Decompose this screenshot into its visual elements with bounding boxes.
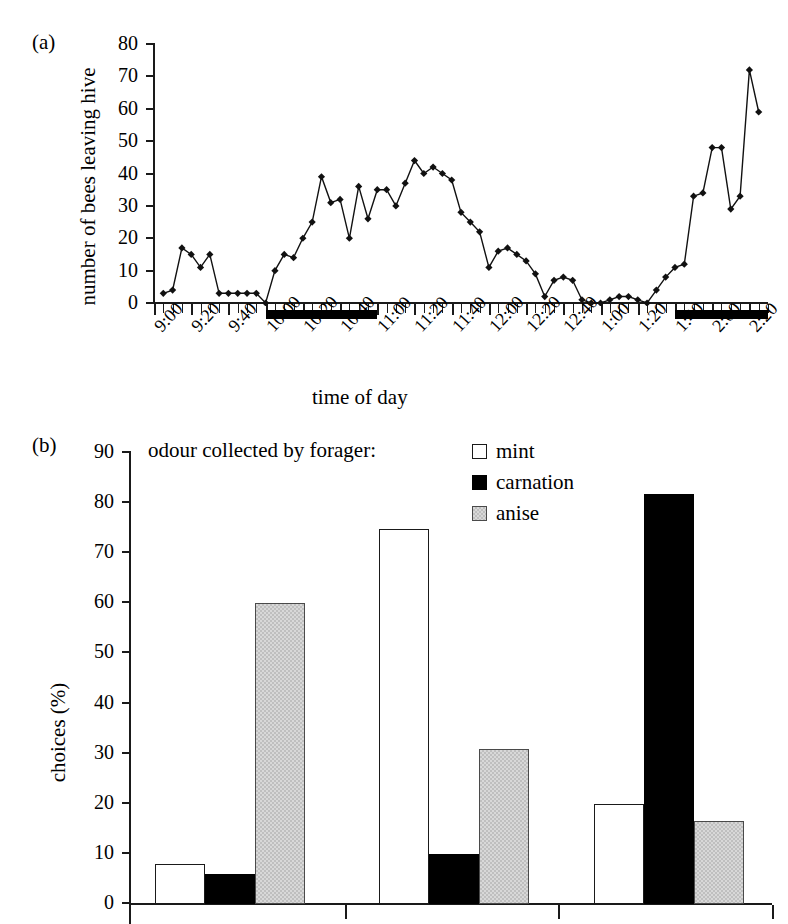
odour-period-bar	[266, 310, 378, 319]
panel-b-y-tick-label: 0	[68, 892, 114, 912]
panel-a-y-tick-label: 0	[92, 292, 138, 312]
legend-item-anise: anise	[472, 498, 574, 529]
legend: mint carnation anise	[472, 436, 574, 529]
panel-b-y-tick-label: 80	[68, 491, 114, 511]
panel-b-group-tick	[772, 905, 774, 919]
bar-anise-group-3	[694, 821, 744, 904]
panel-a-y-tick-label: 80	[92, 33, 138, 53]
panel-b-y-tick-label: 50	[68, 641, 114, 661]
panel-a-y-tick-label: 20	[92, 227, 138, 247]
bar-carnation-group-2	[429, 854, 479, 904]
panel-a-y-tick	[146, 75, 154, 77]
panel-a-y-tick	[146, 108, 154, 110]
panel-b-y-tick	[122, 501, 130, 503]
panel-a-y-tick	[146, 270, 154, 272]
panel-b-y-tick-label: 70	[68, 541, 114, 561]
bar-carnation-group-3	[644, 494, 694, 904]
bar-anise-group-1	[255, 603, 305, 904]
panel-a-y-tick	[146, 43, 154, 45]
panel-b-group-tick	[558, 905, 560, 919]
legend-item-mint: mint	[472, 436, 574, 467]
legend-label-mint: mint	[496, 439, 535, 464]
panel-b-y-tick	[122, 451, 130, 453]
legend-item-carnation: carnation	[472, 467, 574, 498]
panel-a-y-tick-label: 10	[92, 260, 138, 280]
panel-b-y-tick-label: 20	[68, 792, 114, 812]
panel-a-y-tick	[146, 237, 154, 239]
panel-a-y-tick-label: 50	[92, 130, 138, 150]
panel-a-line-series	[154, 44, 768, 306]
panel-b-y-tick	[122, 702, 130, 704]
bar-anise-group-2	[479, 749, 529, 904]
odour-period-bar	[675, 310, 768, 319]
legend-swatch-mint-icon	[472, 444, 487, 459]
legend-swatch-anise-icon	[472, 506, 487, 521]
panel-a-y-tick	[146, 205, 154, 207]
panel-a: (a) number of bees leaving hive 01020304…	[0, 0, 788, 420]
panel-b-y-tick	[122, 601, 130, 603]
panel-b-y-tick	[122, 752, 130, 754]
panel-a-y-tick-label: 70	[92, 65, 138, 85]
panel-a-y-tick-label: 60	[92, 98, 138, 118]
panel-b-y-tick-label: 40	[68, 692, 114, 712]
panel-b-label: (b)	[32, 433, 57, 458]
panel-b: (b) odour collected by forager: mint car…	[0, 420, 788, 917]
legend-label-anise: anise	[496, 501, 539, 526]
panel-a-y-tick	[146, 173, 154, 175]
bar-mint-group-1	[155, 864, 205, 904]
panel-a-label: (a)	[32, 30, 55, 55]
legend-title: odour collected by forager:	[148, 438, 376, 463]
panel-a-y-tick	[146, 140, 154, 142]
panel-b-y-tick-label: 10	[68, 842, 114, 862]
legend-label-carnation: carnation	[496, 470, 574, 495]
panel-b-group-tick	[345, 905, 347, 919]
panel-b-y-tick	[122, 802, 130, 804]
panel-b-y-tick	[122, 651, 130, 653]
legend-swatch-carnation-icon	[472, 475, 487, 490]
panel-b-y-tick-label: 60	[68, 591, 114, 611]
panel-b-y-tick	[122, 902, 130, 904]
panel-b-y-tick	[122, 551, 130, 553]
panel-b-y-tick	[122, 852, 130, 854]
bar-carnation-group-1	[205, 874, 255, 904]
panel-a-y-tick-label: 40	[92, 163, 138, 183]
panel-a-y-tick	[146, 302, 154, 304]
panel-b-y-axis-title: choices (%)	[46, 613, 71, 853]
bar-mint-group-3	[594, 804, 644, 904]
panel-a-x-axis-title: time of day	[312, 385, 408, 410]
panel-a-y-tick-label: 30	[92, 195, 138, 215]
panel-b-y-tick-label: 90	[68, 441, 114, 461]
bar-mint-group-2	[379, 529, 429, 904]
panel-b-y-tick-label: 30	[68, 742, 114, 762]
